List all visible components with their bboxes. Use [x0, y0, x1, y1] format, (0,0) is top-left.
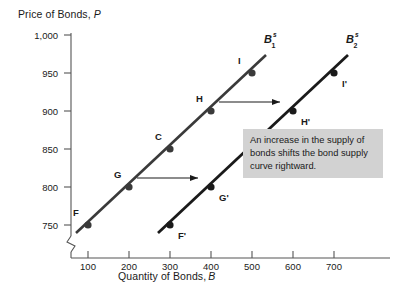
point-G-prime: [207, 183, 214, 190]
y-axis-title-symbol: P: [94, 8, 101, 20]
point-label-F: F: [73, 207, 79, 218]
point-label-F-prime: F': [178, 230, 186, 241]
curve-label-2-superscript: s: [355, 31, 359, 38]
x-tick-label-300: 300: [153, 261, 187, 272]
curve-label-2-base: B: [346, 33, 354, 45]
y-tick-label-800: 800: [18, 182, 58, 193]
point-H-prime: [289, 107, 296, 114]
point-label-C: C: [155, 131, 162, 142]
point-G: [125, 183, 132, 190]
shift-arrow-g: [137, 175, 198, 181]
y-axis-title-text: Price of Bonds,: [18, 8, 91, 20]
point-F: [84, 221, 91, 228]
x-tick-label-200: 200: [112, 261, 146, 272]
point-label-I-prime: I': [342, 78, 347, 89]
y-tick-label-850: 850: [18, 144, 58, 155]
point-I-prime: [330, 69, 337, 76]
supply-curve-1: [76, 55, 266, 233]
curve-label-1-superscript: s: [273, 31, 277, 38]
point-I: [248, 69, 255, 76]
y-tick-label-950: 950: [18, 68, 58, 79]
x-tick-label-700: 700: [317, 261, 351, 272]
x-tick-label-600: 600: [276, 261, 310, 272]
supply-curve-1-points: [84, 69, 255, 228]
y-tick-label-900: 900: [18, 106, 58, 117]
x-axis-ticks: [88, 251, 334, 258]
chart-figure: Price of Bonds,P Quantity of Bonds,B 1,0…: [0, 0, 401, 292]
point-C: [166, 145, 173, 152]
y-axis-title: Price of Bonds,P: [18, 8, 101, 20]
curve-label-2-subscript: 2: [354, 42, 358, 49]
y-tick-label-1000: 1,000: [18, 30, 58, 41]
curve-label-supply-1: Bs1: [264, 32, 279, 47]
point-label-G-prime: G': [219, 192, 229, 203]
annotation-shift-note: An increase in the supply of bonds shift…: [243, 129, 383, 178]
point-label-H-prime: H': [301, 116, 310, 127]
point-label-G: G: [114, 169, 121, 180]
point-F-prime: [166, 221, 173, 228]
point-label-H: H: [196, 93, 203, 104]
y-tick-label-750: 750: [18, 220, 58, 231]
x-tick-label-500: 500: [235, 261, 269, 272]
y-axis-break-icon: [67, 236, 75, 252]
x-tick-label-400: 400: [194, 261, 228, 272]
x-tick-label-100: 100: [71, 261, 105, 272]
shift-arrow-h: [219, 99, 280, 105]
point-H: [207, 107, 214, 114]
curve-label-1-base: B: [264, 33, 272, 45]
y-axis-ticks: [64, 35, 71, 225]
curve-label-supply-2: Bs2: [346, 32, 361, 47]
curve-label-1-subscript: 1: [272, 42, 276, 49]
point-label-I: I: [238, 55, 241, 66]
annotation-shift-note-text: An increase in the supply of bonds shift…: [250, 135, 368, 171]
